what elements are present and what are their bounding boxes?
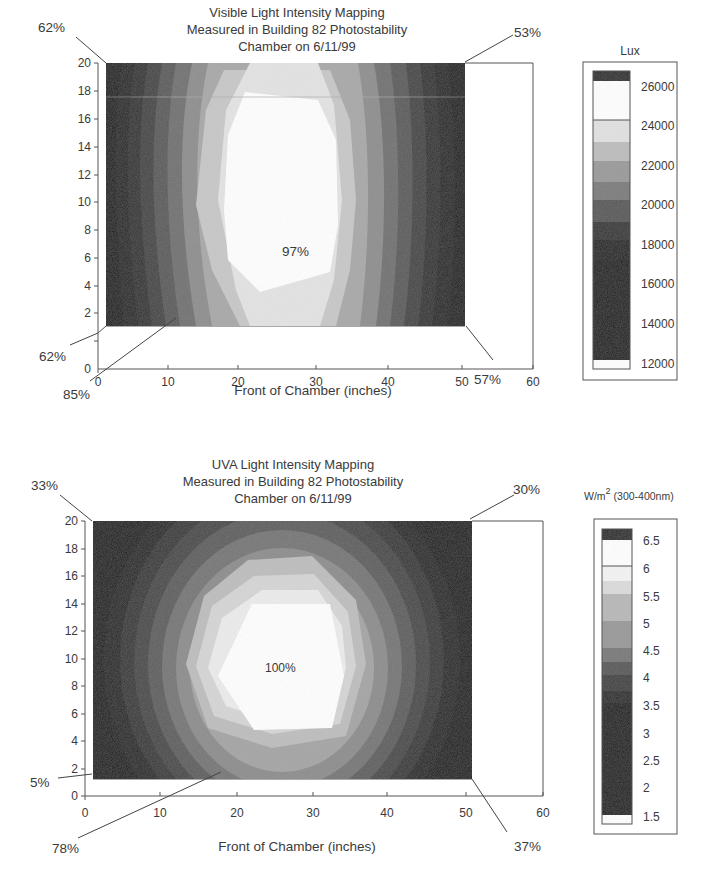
svg-text:2: 2 xyxy=(643,781,650,795)
chart1-annotation-top-right: 53% xyxy=(514,25,541,40)
chart-visible-light: Visible Light Intensity Mapping Measured… xyxy=(38,5,677,402)
svg-text:22000: 22000 xyxy=(641,159,675,173)
svg-text:24000: 24000 xyxy=(641,119,675,133)
svg-text:40: 40 xyxy=(380,806,394,820)
chart2-annotation-front: 78% xyxy=(52,841,79,856)
chart2-annotation-top-left: 33% xyxy=(31,478,58,493)
svg-text:20: 20 xyxy=(65,514,79,528)
svg-text:60: 60 xyxy=(536,806,550,820)
svg-text:4: 4 xyxy=(84,279,91,293)
svg-text:20: 20 xyxy=(78,56,92,70)
svg-text:8: 8 xyxy=(84,223,91,237)
svg-text:14000: 14000 xyxy=(641,317,675,331)
svg-text:8: 8 xyxy=(71,679,78,693)
svg-text:20000: 20000 xyxy=(641,198,675,212)
chart1-annotation-bottom-right: 57% xyxy=(474,372,501,387)
svg-text:16000: 16000 xyxy=(641,277,675,291)
svg-text:5: 5 xyxy=(643,617,650,631)
chart2-colorbar: W/m2(300-400nm) 6.5 6 5.5 xyxy=(584,486,677,834)
svg-text:6: 6 xyxy=(71,707,78,721)
chart1-heatmap xyxy=(106,63,465,326)
chart2-colorbar-label: W/m2(300-400nm) xyxy=(584,486,674,502)
svg-text:4: 4 xyxy=(643,671,650,685)
svg-text:16: 16 xyxy=(78,112,92,126)
svg-text:26000: 26000 xyxy=(641,80,675,94)
svg-text:2: 2 xyxy=(71,762,78,776)
chart1-title-line1: Visible Light Intensity Mapping xyxy=(209,5,384,20)
chart1-y-tick-labels: 20 18 16 14 12 10 8 6 4 2 0 xyxy=(78,56,92,376)
chart2-annotation-bottom-right: 37% xyxy=(514,839,541,854)
chart2-annotation-top-right: 30% xyxy=(513,482,540,497)
chart1-annotation-top-left: 62% xyxy=(38,20,65,35)
chart1-title-line2: Measured in Building 82 Photostability xyxy=(187,22,408,37)
chart1-title-line3: Chamber on 6/11/99 xyxy=(238,39,356,54)
chart2-annotation-peak: 100% xyxy=(265,661,296,675)
svg-text:10: 10 xyxy=(161,375,175,389)
chart2-x-tick-labels: 0 10 20 30 40 50 60 xyxy=(82,806,550,820)
chart1-annotation-bottom-left: 62% xyxy=(39,349,66,364)
svg-text:60: 60 xyxy=(526,375,540,389)
svg-text:18: 18 xyxy=(78,84,92,98)
svg-text:10: 10 xyxy=(153,806,167,820)
svg-text:12: 12 xyxy=(65,624,79,638)
chart2-y-axis xyxy=(81,521,85,796)
svg-text:50: 50 xyxy=(459,806,473,820)
svg-text:20: 20 xyxy=(230,806,244,820)
svg-text:6.5: 6.5 xyxy=(643,534,660,548)
chart2-title-line2: Measured in Building 82 Photostability xyxy=(183,474,404,489)
svg-text:0: 0 xyxy=(84,362,91,376)
svg-text:14: 14 xyxy=(78,140,92,154)
svg-text:3: 3 xyxy=(643,727,650,741)
svg-text:10: 10 xyxy=(78,195,92,209)
svg-text:4: 4 xyxy=(71,734,78,748)
svg-text:6: 6 xyxy=(643,562,650,576)
svg-text:6: 6 xyxy=(84,251,91,265)
svg-text:5.5: 5.5 xyxy=(643,590,660,604)
chart1-annotation-peak: 97% xyxy=(282,244,309,259)
svg-text:12: 12 xyxy=(78,168,92,182)
chart2-heatmap xyxy=(93,460,472,860)
chart2-title-line3: Chamber on 6/11/99 xyxy=(234,491,352,506)
svg-text:2: 2 xyxy=(84,306,91,320)
svg-text:18000: 18000 xyxy=(641,238,675,252)
svg-text:10: 10 xyxy=(65,652,79,666)
svg-text:18: 18 xyxy=(65,542,79,556)
chart2-x-axis-label: Front of Chamber (inches) xyxy=(218,839,376,854)
figure: Visible Light Intensity Mapping Measured… xyxy=(0,0,716,886)
chart2-title-line1: UVA Light Intensity Mapping xyxy=(212,457,374,472)
svg-text:50: 50 xyxy=(455,375,469,389)
svg-text:30: 30 xyxy=(306,806,320,820)
svg-text:3.5: 3.5 xyxy=(643,699,660,713)
svg-text:0: 0 xyxy=(71,789,78,803)
chart1-y-axis xyxy=(94,63,98,341)
chart-uva-light: UVA Light Intensity Mapping Measured in … xyxy=(30,457,677,860)
svg-text:2.5: 2.5 xyxy=(643,754,660,768)
chart1-colorbar: Lux 26000 24000 22000 20000 18000 xyxy=(583,44,677,380)
chart2-y-tick-labels: 20 18 16 14 12 10 8 6 4 2 0 xyxy=(65,514,79,803)
svg-text:12000: 12000 xyxy=(641,357,675,371)
svg-text:16: 16 xyxy=(65,569,79,583)
svg-text:1.5: 1.5 xyxy=(643,810,660,824)
svg-text:14: 14 xyxy=(65,597,79,611)
svg-text:0: 0 xyxy=(82,806,89,820)
svg-text:4.5: 4.5 xyxy=(643,644,660,658)
chart2-annotation-bottom-left: 5% xyxy=(30,775,50,790)
chart1-colorbar-label: Lux xyxy=(620,44,639,58)
chart1-x-axis-label: Front of Chamber (inches) xyxy=(234,383,392,398)
chart1-annotation-front: 85% xyxy=(63,387,90,402)
